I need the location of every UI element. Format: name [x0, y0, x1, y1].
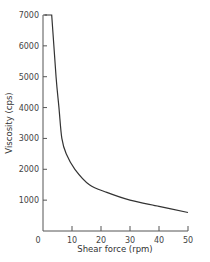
y-tick-label: 2000	[19, 165, 39, 174]
y-tick-label: 7000	[19, 11, 39, 20]
y-tick-label: 6000	[19, 42, 39, 51]
viscosity-chart: 100020003000400050006000700001020304050 …	[0, 0, 210, 262]
x-tick-label: 50	[183, 236, 193, 245]
viscosity-curve	[44, 15, 188, 212]
y-tick-label: 5000	[19, 73, 39, 82]
plot-area: 100020003000400050006000700001020304050	[19, 11, 193, 245]
y-tick-label: 1000	[19, 196, 39, 205]
x-axis-title: Shear force (rpm)	[77, 244, 152, 254]
y-tick-label: 4000	[19, 104, 39, 113]
y-axis-title: Viscosity (cps)	[4, 92, 14, 153]
x-tick-label: 10	[67, 236, 77, 245]
y-tick-label: 3000	[19, 134, 39, 143]
x-tick-label: 0	[35, 236, 40, 245]
x-tick-label: 40	[154, 236, 164, 245]
